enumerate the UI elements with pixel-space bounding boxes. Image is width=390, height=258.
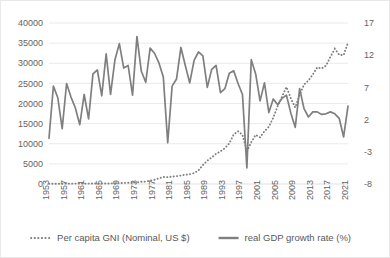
x-axis-tick-label: 1969 <box>111 180 121 200</box>
legend-label: real GDP growth rate (%) <box>245 232 351 243</box>
x-axis-tick-label: 1973 <box>129 180 139 200</box>
x-axis-tick-label: 2009 <box>287 180 297 200</box>
x-axis-tick-label: 1997 <box>234 180 244 200</box>
left-axis-tick-label: 30000 <box>18 58 43 68</box>
right-axis-tick-label: 12 <box>364 50 374 60</box>
left-axis-tick-label: 40000 <box>18 18 43 28</box>
right-axis-tick-label: 2 <box>364 115 369 125</box>
x-axis-tick-label: 2017 <box>322 180 332 200</box>
left-axis-tick-label: 10000 <box>18 139 43 149</box>
series-line-per-capita-gni <box>49 43 348 184</box>
series-line-real-gdp-growth <box>49 37 348 168</box>
x-axis-tick-label: 2013 <box>305 180 315 200</box>
x-axis-tick-label: 1957 <box>59 180 69 200</box>
chart-plot-area: 0500010000150002000025000300003500040000… <box>1 1 390 258</box>
x-axis-tick-label: 2005 <box>270 180 280 200</box>
left-axis-tick-labels: 0500010000150002000025000300003500040000 <box>18 18 43 189</box>
left-axis-tick-label: 5000 <box>23 159 43 169</box>
x-axis-tick-label: 2021 <box>340 180 350 200</box>
x-axis-tick-label: 1989 <box>199 180 209 200</box>
right-axis-tick-label: -3 <box>364 147 372 157</box>
left-axis-tick-label: 15000 <box>18 119 43 129</box>
right-axis-tick-label: -8 <box>364 179 372 189</box>
chart-svg: 0500010000150002000025000300003500040000… <box>1 1 390 258</box>
legend-label: Per capita GNI (Nominal, US $) <box>57 232 190 243</box>
x-axis-tick-label: 1981 <box>164 180 174 200</box>
left-axis-tick-label: 20000 <box>18 99 43 109</box>
right-axis-tick-label: 7 <box>364 83 369 93</box>
x-axis-tick-label: 1977 <box>147 180 157 200</box>
data-series-group <box>49 37 348 184</box>
left-axis-tick-label: 35000 <box>18 38 43 48</box>
right-axis-tick-label: 17 <box>364 18 374 28</box>
chart-card: 0500010000150002000025000300003500040000… <box>0 0 390 258</box>
left-axis-tick-label: 25000 <box>18 79 43 89</box>
x-axis-tick-label: 1985 <box>182 180 192 200</box>
x-axis-tick-label: 2001 <box>252 180 262 200</box>
x-axis-tick-label: 1993 <box>217 180 227 200</box>
chart-legend: Per capita GNI (Nominal, US $)real GDP g… <box>31 232 351 243</box>
right-axis-tick-labels: -8-3271217 <box>364 18 374 189</box>
x-axis-tick-labels: 1953195719611965196919731977198119851989… <box>41 180 350 200</box>
